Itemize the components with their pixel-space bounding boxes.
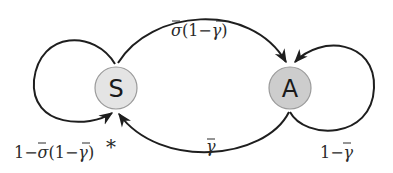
node-s: S — [95, 67, 137, 109]
edge-label-a-self: 1−γ — [320, 143, 354, 162]
node-a-label: A — [282, 75, 299, 103]
one-minus: 1− — [320, 143, 344, 162]
asterisk-marker: * — [106, 135, 116, 159]
gamma-symbol: γ — [344, 143, 354, 162]
edge-label-a-to-s: γ — [206, 137, 216, 156]
label-paren-close: ) — [221, 21, 227, 40]
svg-text:1−γ: 1−γ — [320, 143, 354, 162]
svg-text:σ(1−γ): σ(1−γ) — [171, 21, 228, 40]
svg-text:1−σ(1−γ): 1−σ(1−γ) — [14, 143, 94, 162]
edge-label-s-self: 1−σ(1−γ) * — [14, 135, 116, 162]
gamma-symbol: γ — [206, 137, 216, 156]
state-diagram: S A σ(1−γ) γ 1−σ(1−γ) * 1−γ — [0, 0, 393, 173]
label-paren-open: (1− — [49, 143, 79, 162]
svg-text:γ: γ — [206, 137, 216, 156]
gamma-symbol: γ — [212, 21, 222, 40]
one-minus: 1− — [14, 143, 38, 162]
node-s-label: S — [108, 75, 123, 103]
label-paren-open: (1− — [182, 21, 212, 40]
gamma-symbol: γ — [78, 143, 88, 162]
node-a: A — [269, 67, 311, 109]
label-paren-close: ) — [88, 143, 94, 162]
edge-a-to-s — [119, 112, 289, 152]
edge-label-s-to-a: σ(1−γ) — [171, 21, 228, 40]
